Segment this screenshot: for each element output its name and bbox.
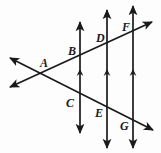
upper-transversal (10, 22, 152, 87)
point-label-g: G (120, 120, 129, 132)
point-label-e: E (95, 107, 103, 119)
point-label-a: A (40, 57, 48, 69)
geometry-canvas (0, 0, 161, 153)
parallel-line-bc (77, 22, 84, 133)
point-label-d: D (96, 32, 105, 44)
transversals-group (10, 22, 153, 130)
parallel-line-fg (130, 6, 137, 148)
point-label-b: B (68, 45, 76, 57)
point-label-f: F (122, 21, 130, 33)
geometry-diagram: A B C D E F G (0, 0, 161, 153)
point-label-c: C (66, 97, 74, 109)
lower-transversal (10, 58, 153, 130)
